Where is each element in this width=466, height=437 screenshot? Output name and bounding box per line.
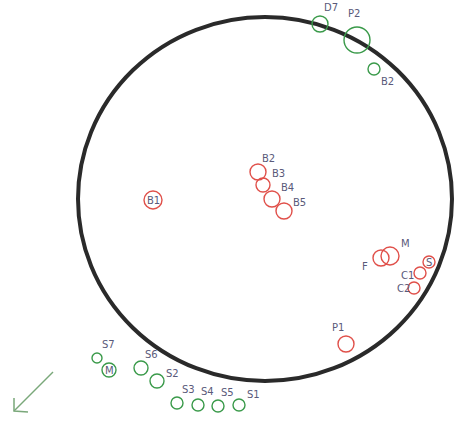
- marker-s1: S1: [233, 389, 260, 411]
- marker-label: S6: [145, 349, 158, 360]
- marker-label: S: [426, 257, 432, 268]
- marker-p1: P1: [332, 322, 354, 352]
- marker-label: B3: [272, 168, 285, 179]
- marker-label: F: [362, 261, 368, 272]
- diagram-canvas: D7P2B2B1B2B3B4B5FMSC1C2P1S7MS6S2S3S4S5S1: [0, 0, 466, 437]
- marker-circle: [92, 353, 102, 363]
- marker-label: B2: [262, 153, 275, 164]
- marker-circle: [233, 399, 245, 411]
- marker-label: B2: [381, 76, 394, 87]
- marker-label: P2: [348, 8, 360, 19]
- marker-s5: S5: [212, 387, 234, 412]
- marker-f: F: [362, 250, 389, 272]
- marker-label: B5: [293, 197, 306, 208]
- boundary-circle: [78, 17, 452, 381]
- marker-circle: [171, 397, 183, 409]
- marker-circle: [134, 361, 148, 375]
- direction-arrow-icon: [14, 372, 53, 412]
- marker-s2: S2: [150, 368, 179, 388]
- marker-label: S5: [221, 387, 234, 398]
- marker-m-out: M: [102, 363, 116, 377]
- marker-s4: S4: [192, 386, 214, 411]
- marker-label: P1: [332, 322, 344, 333]
- marker-b1: B1: [144, 191, 162, 209]
- marker-label: C1: [401, 270, 414, 281]
- marker-label: S1: [247, 389, 260, 400]
- marker-label: M: [401, 238, 410, 249]
- marker-s: S: [423, 256, 435, 268]
- marker-b2-top: B2: [368, 63, 394, 87]
- marker-circle: [368, 63, 380, 75]
- marker-circle: [150, 374, 164, 388]
- marker-circle: [338, 336, 354, 352]
- marker-circle: [256, 178, 270, 192]
- marker-label: D7: [324, 2, 338, 13]
- marker-label: B4: [281, 182, 294, 193]
- marker-label: B1: [147, 195, 160, 206]
- marker-circle: [381, 247, 399, 265]
- marker-c1: C1: [401, 267, 426, 281]
- marker-circle: [192, 399, 204, 411]
- marker-circle: [212, 400, 224, 412]
- marker-c2: C2: [397, 282, 420, 294]
- marker-label: S2: [166, 368, 179, 379]
- marker-label: S3: [182, 384, 195, 395]
- marker-s3: S3: [171, 384, 195, 409]
- marker-s6: S6: [134, 349, 158, 375]
- marker-circle: [414, 267, 426, 279]
- marker-s7: S7: [92, 339, 115, 363]
- marker-label: S4: [201, 386, 214, 397]
- marker-label: C2: [397, 283, 410, 294]
- marker-circle: [264, 191, 280, 207]
- marker-label: S7: [102, 339, 115, 350]
- marker-label: M: [105, 365, 114, 376]
- marker-circle: [276, 203, 292, 219]
- marker-layer: D7P2B2B1B2B3B4B5FMSC1C2P1S7MS6S2S3S4S5S1: [92, 2, 435, 412]
- marker-b4: B4: [264, 182, 294, 207]
